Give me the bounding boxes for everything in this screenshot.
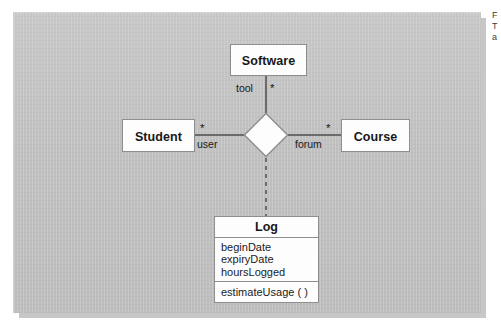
class-attribute: beginDate (221, 241, 318, 254)
role-label-tool: tool (236, 83, 253, 94)
class-attribute: hoursLogged (221, 266, 318, 279)
class-name-software: Software (231, 45, 306, 68)
class-attribute: expiryDate (221, 253, 318, 266)
class-operation: estimateUsage ( ) (221, 286, 318, 299)
figure-root: Software Student Course Log beginDate ex… (0, 0, 501, 331)
association-class-dashed-line (265, 158, 267, 216)
caption-line: T (492, 21, 501, 32)
multiplicity-student: * (200, 123, 204, 135)
multiplicity-course: * (326, 123, 330, 135)
class-box-software[interactable]: Software (230, 44, 307, 76)
class-attributes-log: beginDate expiryDate hoursLogged (215, 238, 318, 283)
class-name-course: Course (342, 120, 409, 144)
role-label-forum: forum (295, 139, 322, 150)
class-box-student[interactable]: Student (122, 119, 195, 152)
class-operations-log: estimateUsage ( ) (215, 282, 318, 302)
diagram-panel: Software Student Course Log beginDate ex… (13, 12, 481, 313)
multiplicity-software: * (270, 83, 274, 95)
clipped-page-caption: F T a (492, 10, 501, 43)
association-line-software (265, 76, 267, 113)
association-line-course (288, 134, 342, 136)
class-name-log: Log (215, 217, 318, 238)
caption-line: a (492, 32, 501, 43)
association-diamond-icon (243, 112, 289, 158)
class-box-course[interactable]: Course (341, 119, 410, 152)
caption-line: F (492, 10, 501, 21)
role-label-user: user (197, 139, 217, 150)
class-box-log[interactable]: Log beginDate expiryDate hoursLogged est… (214, 216, 319, 303)
class-name-student: Student (123, 120, 194, 144)
